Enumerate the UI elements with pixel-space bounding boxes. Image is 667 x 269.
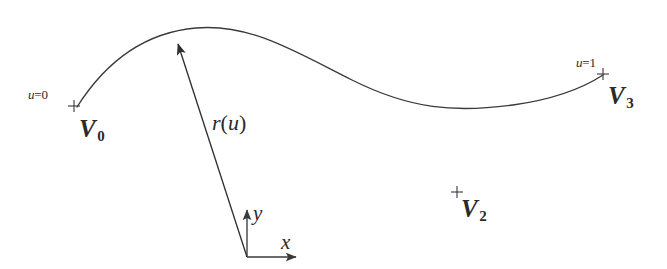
axis-label-x: x: [281, 232, 290, 253]
vertex-label-v2: V2: [461, 196, 487, 224]
u-end-value: 1: [589, 55, 595, 70]
axis-label-y: y: [253, 203, 262, 224]
vector-open-paren: (: [221, 110, 228, 135]
u-start-value: 0: [41, 87, 47, 102]
v3-letter: V: [608, 82, 625, 109]
parameter-label-u-end: u=1: [576, 56, 596, 69]
position-vector-arrow: [178, 44, 247, 257]
v0-subscript: 0: [97, 128, 105, 144]
figure-container: u=0 V0 r(u) y x V2 u=1 V3: [0, 0, 667, 269]
vector-label-r-of-u: r(u): [212, 112, 246, 134]
vector-name: r: [212, 110, 221, 135]
plus-marker-v0: [68, 100, 80, 112]
vector-param: u: [228, 110, 239, 135]
v3-subscript: 3: [626, 95, 634, 111]
v2-subscript: 2: [479, 208, 487, 224]
v2-letter: V: [461, 195, 478, 222]
vector-close-paren: ): [239, 110, 246, 135]
vertex-label-v3: V3: [608, 83, 634, 111]
vertex-label-v0: V0: [79, 116, 105, 144]
parameter-label-u-start: u=0: [28, 88, 48, 101]
v0-letter: V: [79, 115, 96, 142]
parametric-curve: [77, 27, 603, 108]
